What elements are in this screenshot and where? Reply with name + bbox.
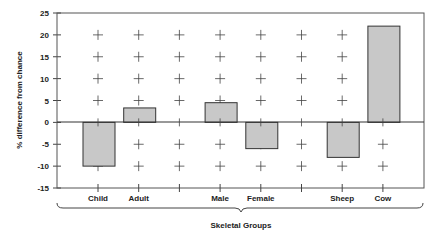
bars [83, 26, 400, 166]
bar-chart: 2520151050-5-10-15 ChildAdultMaleFemaleS… [0, 0, 440, 241]
bar-adult [124, 108, 156, 122]
y-tick-label: 10 [40, 75, 49, 84]
y-tick-label: 20 [40, 31, 49, 40]
y-tick-label: -15 [37, 184, 49, 193]
category-label: Male [211, 194, 229, 203]
category-labels: ChildAdultMaleFemaleSheepCow [88, 194, 392, 203]
bar-sheep [327, 122, 359, 157]
category-label: Cow [374, 194, 392, 203]
bar-child [83, 122, 115, 166]
y-tick-label: 5 [45, 97, 50, 106]
y-tick-label: 0 [45, 118, 50, 127]
y-axis-title: % difference from chance [15, 51, 24, 149]
category-label: Adult [128, 194, 149, 203]
bar-male [205, 103, 237, 123]
y-tick-label: 25 [40, 9, 49, 18]
y-tick-label: -5 [42, 140, 50, 149]
bar-cow [368, 26, 400, 122]
x-axis-title: Skeletal Groups [211, 221, 272, 230]
category-label: Child [88, 194, 108, 203]
y-tick-label: -10 [37, 162, 49, 171]
category-label: Sheep [330, 194, 354, 203]
y-tick-label: 15 [40, 53, 49, 62]
category-label: Female [247, 194, 275, 203]
group-brace [57, 203, 423, 212]
bar-female [246, 122, 278, 148]
